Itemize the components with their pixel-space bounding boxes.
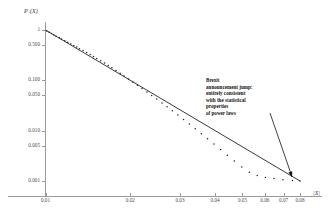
data-point bbox=[220, 149, 222, 151]
data-point bbox=[146, 91, 148, 93]
data-point bbox=[137, 85, 139, 87]
data-point bbox=[46, 30, 48, 32]
data-point bbox=[108, 65, 110, 67]
data-point bbox=[156, 98, 158, 100]
data-point bbox=[111, 67, 113, 69]
data-point bbox=[104, 62, 106, 64]
data-point bbox=[55, 35, 57, 37]
brexit-annotation: Brexitannouncement jump:entirely consist… bbox=[206, 77, 292, 117]
data-point bbox=[234, 160, 236, 162]
data-point bbox=[249, 172, 251, 174]
data-point bbox=[64, 40, 66, 42]
data-point bbox=[282, 179, 284, 181]
data-point bbox=[151, 95, 153, 97]
annotation-arrow bbox=[270, 113, 292, 177]
data-point bbox=[172, 110, 174, 112]
data-point bbox=[299, 180, 301, 182]
data-point bbox=[89, 54, 91, 56]
data-point bbox=[76, 46, 78, 48]
data-point bbox=[53, 34, 55, 36]
data-point bbox=[132, 81, 134, 83]
data-point bbox=[256, 175, 258, 177]
data-point bbox=[123, 75, 125, 77]
data-point bbox=[59, 37, 61, 39]
data-point bbox=[166, 106, 168, 108]
arrow-shaft bbox=[270, 113, 292, 177]
data-point bbox=[86, 52, 88, 54]
data-point bbox=[265, 177, 267, 179]
chart-root: P>(X) |X| 10.5000.1000.0500.0100.0050.00… bbox=[0, 0, 330, 218]
data-point bbox=[128, 78, 130, 80]
data-point bbox=[292, 180, 294, 182]
data-point bbox=[273, 178, 275, 180]
data-point bbox=[61, 38, 63, 40]
data-point bbox=[213, 143, 215, 145]
annotation-line: announcement jump: bbox=[206, 84, 292, 91]
data-point bbox=[177, 114, 179, 116]
data-point bbox=[227, 154, 229, 156]
annotation-line: properties bbox=[206, 103, 292, 110]
data-point bbox=[73, 45, 75, 47]
data-point bbox=[79, 48, 81, 50]
data-point bbox=[141, 88, 143, 90]
data-point bbox=[201, 133, 203, 135]
data-point bbox=[96, 58, 98, 60]
data-point bbox=[70, 43, 72, 45]
data-point bbox=[115, 70, 117, 72]
annotation-line: entirely consistent bbox=[206, 90, 292, 97]
data-point bbox=[195, 128, 197, 130]
annotation-line: Brexit bbox=[206, 77, 292, 84]
annotation-line: with the statistical bbox=[206, 97, 292, 104]
plot-area: P>(X) |X| 10.5000.1000.0500.0100.0050.00… bbox=[0, 0, 330, 218]
data-point bbox=[183, 119, 185, 121]
annotation-line: of power laws bbox=[206, 110, 292, 117]
data-point bbox=[189, 123, 191, 125]
data-point bbox=[82, 50, 84, 52]
data-point bbox=[100, 60, 102, 62]
data-point bbox=[161, 102, 163, 104]
data-point bbox=[93, 56, 95, 58]
data-point bbox=[207, 138, 209, 140]
data-point bbox=[67, 42, 69, 44]
data-point bbox=[241, 166, 243, 168]
data-point bbox=[119, 72, 121, 74]
data-point bbox=[51, 33, 53, 35]
data-point bbox=[48, 31, 50, 33]
